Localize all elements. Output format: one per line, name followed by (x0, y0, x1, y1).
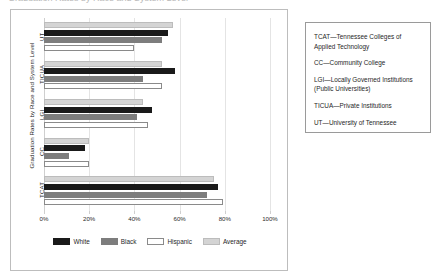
abbreviation-item: UT—University of Tennessee (314, 118, 423, 128)
bar-average-tcat (44, 176, 214, 182)
legend-label-average: Average (223, 238, 247, 245)
x-axis-tick (270, 211, 271, 214)
bar-group: UT (44, 18, 270, 57)
x-axis-tick (89, 211, 90, 214)
legend-label-hispanic: Hispanic (167, 238, 192, 245)
legend-entry-white: White (53, 238, 89, 245)
bar-group: TCAT (44, 172, 270, 211)
x-axis-tick-label: 0% (40, 215, 49, 222)
gridline (270, 18, 271, 211)
abbreviation-item: TICUA—Private Institutions (314, 101, 423, 111)
legend-swatch-white (53, 238, 70, 245)
chart-panel: Graduation Rates by Race and System Leve… (10, 9, 288, 271)
cropped-title-text: Graduation Rates by Race and System Leve… (8, 0, 188, 3)
cropped-title-sliver: Graduation Rates by Race and System Leve… (0, 0, 441, 5)
bar-black-tcat (44, 192, 207, 198)
bar-hispanic-tcat (44, 199, 223, 205)
legend-entry-average: Average (203, 238, 247, 245)
x-axis-tick (134, 211, 135, 214)
x-axis-tick-label: 80% (219, 215, 231, 222)
abbreviation-item: TCAT—Tennessee Colleges of Applied Techn… (314, 32, 423, 51)
abbreviation-item: CC—Community College (314, 58, 423, 68)
x-axis-tick (180, 211, 181, 214)
y-axis-title: Graduation Rates by Race and System Leve… (28, 21, 35, 191)
bar-group: CC (44, 134, 270, 173)
x-axis: 0%20%40%60%80%100% (44, 211, 270, 225)
bar-white-tcat (44, 184, 218, 190)
legend-entry-hispanic: Hispanic (147, 238, 192, 245)
legend-label-white: White (73, 238, 89, 245)
bar-white-ticua (44, 68, 175, 74)
bar-black-cc (44, 153, 69, 159)
x-axis-tick-label: 40% (128, 215, 140, 222)
bar-white-lgi (44, 107, 152, 113)
bar-hispanic-ticua (44, 83, 162, 89)
x-axis-tick-label: 60% (173, 215, 185, 222)
abbreviation-item: LGI—Locally Governed Institutions (Publi… (314, 75, 423, 94)
bar-black-ut (44, 37, 162, 43)
plot-area: TCATCCLGITICUAUT (44, 18, 270, 211)
bar-black-lgi (44, 114, 137, 120)
legend-swatch-average (203, 238, 220, 245)
bar-group: TICUA (44, 57, 270, 96)
x-axis-tick-label: 100% (262, 215, 278, 222)
abbreviations-box: TCAT—Tennessee Colleges of Applied Techn… (305, 22, 431, 133)
bar-group: LGI (44, 95, 270, 134)
bar-hispanic-cc (44, 161, 89, 167)
bar-average-cc (44, 138, 89, 144)
bar-average-lgi (44, 99, 143, 105)
bar-hispanic-lgi (44, 122, 148, 128)
legend-entry-black: Black (101, 238, 137, 245)
bar-average-ut (44, 22, 173, 28)
x-axis-tick (225, 211, 226, 214)
x-axis-tick (44, 211, 45, 214)
bar-hispanic-ut (44, 45, 134, 51)
legend-swatch-black (101, 238, 118, 245)
bar-black-ticua (44, 76, 143, 82)
bar-white-cc (44, 145, 85, 151)
series-legend: WhiteBlackHispanicAverage (11, 238, 289, 245)
bar-average-ticua (44, 61, 162, 67)
legend-label-black: Black (121, 238, 137, 245)
bar-white-ut (44, 30, 168, 36)
x-axis-tick-label: 20% (83, 215, 95, 222)
legend-swatch-hispanic (147, 238, 164, 245)
